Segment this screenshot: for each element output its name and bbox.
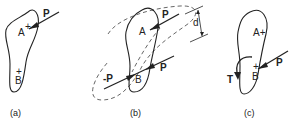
moment-label-T: T [227,74,233,85]
panel-c: A+ P + B T (c) [227,10,288,118]
caption-c: (c) [244,108,255,118]
point-label-B: B [15,75,22,86]
rigid-body-b [126,8,159,92]
dimension-ext-bottom [190,34,208,42]
arrowhead-P [145,63,155,70]
caption-b: (b) [130,108,141,118]
point-label-B: B [135,74,142,85]
caption-a: (a) [10,108,21,118]
force-label-P: P [43,8,50,19]
point-marker-A: + [25,21,31,32]
force-couple-diagram: P A + + B (a) P A P -P B d (b) A+ P + [0,0,293,124]
point-label-A: A+ [253,27,266,38]
force-label-negP: -P [103,73,113,84]
dashed-curve-inner [132,28,160,72]
force-label-P-A: P [162,9,169,20]
panel-b: P A P -P B d (b) [93,6,208,118]
point-label-B: B [252,71,259,82]
point-label-A: A [139,26,146,37]
point-label-A: A [18,27,25,38]
dimension-ext-top [185,6,203,14]
panel-a: P A + + B (a) [6,8,59,118]
force-label-P: P [276,57,283,68]
force-label-P-B: P [160,62,167,73]
dim-arrow-top [196,10,200,14]
dimension-label-d: d [193,17,199,28]
dim-arrow-bottom [200,32,204,36]
rigid-body-a [6,10,39,92]
